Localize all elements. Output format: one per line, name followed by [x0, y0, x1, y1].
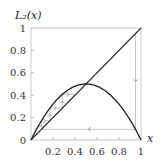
y-tick-label: 0.4 — [10, 90, 26, 101]
x-tick-label: 0.8 — [111, 146, 127, 157]
x-tick-label: 0.4 — [67, 146, 83, 157]
x-tick-label: 1 — [138, 146, 144, 157]
y-tick-label: 0.8 — [10, 45, 26, 56]
y-tick-label: 0.6 — [10, 67, 26, 78]
logistic-curve — [31, 84, 141, 140]
y-tick-label: 1 — [20, 23, 26, 34]
y-axis-title: L₂(x) — [14, 9, 42, 22]
y-tick-label: 0.2 — [10, 112, 26, 123]
cobweb-chart: L₂(x) 00.20.40.60.81 0.20.40.60.81 x — [0, 0, 162, 162]
x-tick-label: 0.2 — [45, 146, 61, 157]
x-axis-title: x — [147, 132, 154, 145]
x-tick-label: 0.6 — [89, 146, 105, 157]
y-axis: 00.20.40.60.81 — [10, 23, 34, 146]
y-tick-label: 0 — [20, 135, 26, 146]
